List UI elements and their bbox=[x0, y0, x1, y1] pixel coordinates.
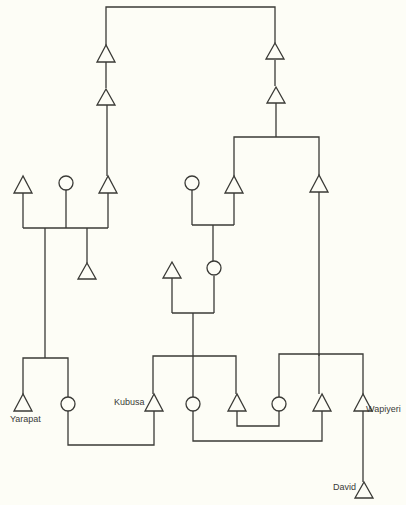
male-ancestor-right-1 bbox=[266, 43, 284, 59]
male-david bbox=[355, 482, 373, 498]
male-ancestor-left-1 bbox=[97, 45, 115, 62]
male-right-bottom bbox=[313, 394, 331, 411]
label-david: David bbox=[333, 482, 356, 492]
kinship-diagram: Yarapat Kubusa Wapiyeri David bbox=[0, 0, 406, 505]
female-right-bottom bbox=[272, 397, 286, 411]
male-yarapat bbox=[14, 394, 32, 411]
male-middle-bottom bbox=[228, 394, 246, 411]
middle-family-lines bbox=[172, 190, 319, 356]
female-kubusa-sibling bbox=[186, 397, 200, 411]
female-middle-child bbox=[207, 261, 221, 275]
female-yarapat-sister bbox=[61, 397, 75, 411]
male-left-child bbox=[78, 263, 96, 279]
label-wapiyeri: Wapiyeri bbox=[366, 404, 401, 414]
male-left-sibling-1 bbox=[14, 176, 32, 193]
left-family-lines bbox=[23, 189, 108, 358]
male-right-sibling bbox=[310, 175, 328, 192]
male-middle-spouse bbox=[163, 262, 181, 278]
male-ancestor-right-2 bbox=[267, 87, 285, 103]
male-ancestor-left-2 bbox=[97, 89, 115, 105]
bottom-generation-lines bbox=[23, 354, 363, 482]
male-middle-parent bbox=[225, 176, 243, 193]
female-middle-parent bbox=[185, 176, 199, 190]
label-kubusa: Kubusa bbox=[114, 397, 145, 407]
ancestor-lines bbox=[106, 7, 319, 176]
female-left-sibling bbox=[59, 176, 73, 190]
label-yarapat: Yarapat bbox=[10, 414, 41, 424]
male-kubusa bbox=[145, 394, 163, 411]
male-left-sibling-2 bbox=[99, 176, 117, 193]
